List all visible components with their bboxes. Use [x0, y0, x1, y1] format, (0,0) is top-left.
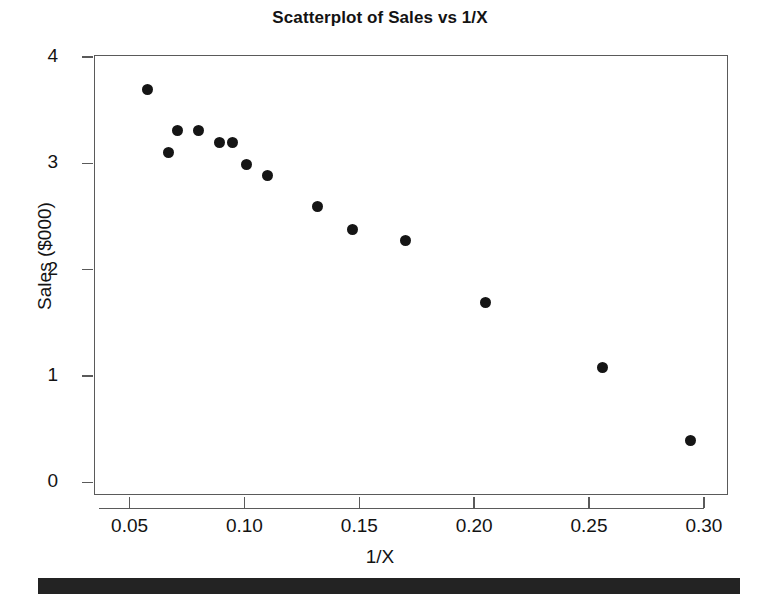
data-point — [685, 435, 696, 446]
x-tick-label: 0.05 — [90, 515, 170, 537]
data-point — [193, 125, 204, 136]
data-point — [172, 125, 183, 136]
x-axis-line — [99, 508, 704, 509]
data-point — [241, 159, 252, 170]
y-tick-label: 4 — [18, 45, 58, 67]
scatter-plot-area — [94, 55, 728, 495]
data-point — [480, 297, 491, 308]
data-point — [227, 137, 238, 148]
data-point — [347, 224, 358, 235]
y-axis-title: Sales ($000) — [34, 116, 56, 396]
y-tick-mark — [82, 269, 93, 270]
data-point — [163, 147, 174, 158]
x-tick-mark — [359, 497, 360, 508]
footer-bar — [38, 578, 740, 594]
x-axis-title: 1/X — [0, 546, 760, 568]
x-tick-label: 0.30 — [664, 515, 744, 537]
x-tick-label: 0.25 — [549, 515, 629, 537]
y-tick-mark — [82, 163, 93, 164]
data-point — [400, 235, 411, 246]
data-point — [262, 170, 273, 181]
x-tick-mark — [588, 497, 589, 508]
data-point — [312, 201, 323, 212]
y-tick-mark — [82, 375, 93, 376]
data-point — [597, 362, 608, 373]
x-tick-mark — [473, 497, 474, 508]
figure-page: Scatterplot of Sales vs 1/X 01234 0.050.… — [0, 0, 760, 595]
x-tick-label: 0.15 — [319, 515, 399, 537]
x-tick-mark — [703, 497, 704, 508]
x-tick-mark — [244, 497, 245, 508]
y-tick-mark — [82, 56, 93, 57]
x-tick-label: 0.20 — [434, 515, 514, 537]
x-tick-mark — [129, 497, 130, 508]
chart-title: Scatterplot of Sales vs 1/X — [0, 8, 760, 28]
x-tick-label: 0.10 — [204, 515, 284, 537]
y-tick-mark — [82, 482, 93, 483]
y-tick-label: 0 — [18, 470, 58, 492]
data-point — [142, 84, 153, 95]
data-point — [214, 137, 225, 148]
